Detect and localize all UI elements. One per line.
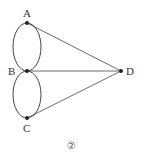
node-d [119, 69, 123, 73]
figure-caption: ② [67, 140, 76, 151]
node-a [25, 21, 29, 25]
edge-b-c-loop [13, 71, 41, 118]
node-c [25, 116, 29, 120]
node-b-label: B [8, 65, 15, 77]
node-b [25, 69, 29, 73]
node-c-label: C [23, 122, 30, 134]
node-d-label: D [126, 65, 134, 77]
graph-diagram: A B C D ② [0, 0, 143, 159]
edge-a-b-loop [13, 23, 41, 71]
node-a-label: A [23, 7, 31, 19]
